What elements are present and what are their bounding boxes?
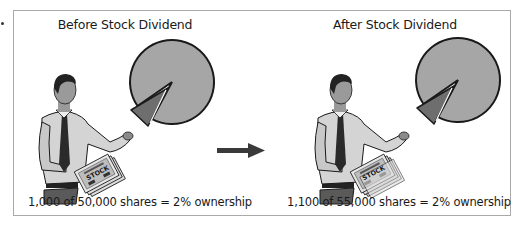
right-arrow-icon [217, 143, 265, 158]
before-title: Before Stock Dividend [58, 17, 193, 32]
after-caption: 1,100 of 55,000 shares = 2% ownership [287, 195, 511, 209]
before-pie-chart [130, 40, 214, 126]
before-caption: 1,000 of 50,000 shares = 2% ownership [28, 195, 252, 209]
after-pie-chart [416, 38, 500, 124]
after-title: After Stock Dividend [333, 17, 457, 32]
